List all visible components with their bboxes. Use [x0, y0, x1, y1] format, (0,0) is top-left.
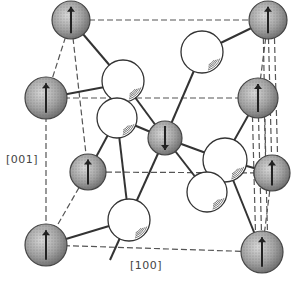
axis-label-001: [001]	[6, 153, 38, 166]
magnetic-atom	[70, 154, 106, 190]
nonmagnetic-atom	[97, 98, 137, 138]
crystal-structure-diagram: [001] [100]	[0, 0, 306, 289]
magnetic-atom	[52, 1, 90, 39]
unit-cell-drawing	[0, 0, 306, 289]
nonmagnetic-atom	[187, 172, 227, 212]
magnetic-atom	[25, 77, 67, 119]
bond	[110, 138, 165, 260]
atoms	[25, 1, 290, 273]
magnetic-atom	[148, 121, 182, 155]
cell-edge	[88, 172, 272, 173]
nonmagnetic-atom	[108, 199, 150, 241]
magnetic-atom	[254, 155, 290, 191]
axis-label-100: [100]	[130, 259, 162, 272]
nonmagnetic-atom	[181, 31, 223, 73]
magnetic-atom	[25, 224, 67, 266]
cell-edge	[71, 20, 88, 172]
magnetic-atom	[249, 1, 287, 39]
cell-edge	[46, 245, 262, 252]
magnetic-atom	[238, 78, 278, 118]
magnetic-atom	[241, 231, 283, 273]
nonmagnetic-atom	[102, 60, 144, 102]
